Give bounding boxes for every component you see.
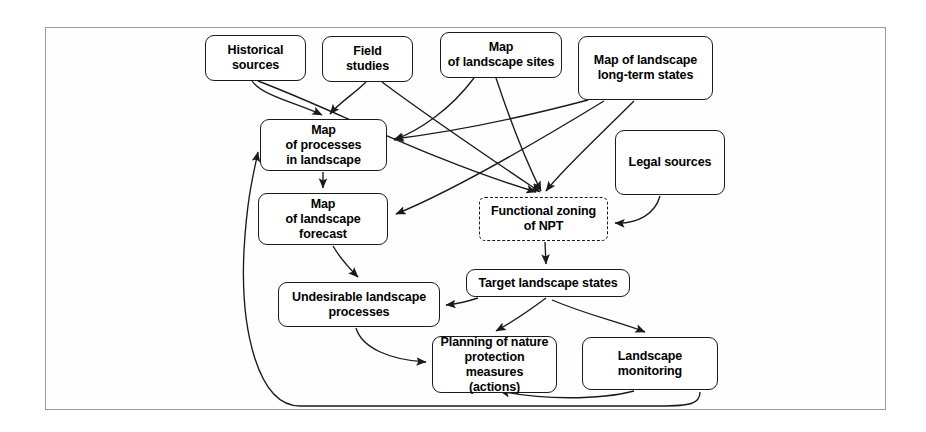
node-label-undesirable-processes: Undesirable landscape processes bbox=[292, 290, 426, 320]
node-map-landscape-long-term[interactable]: Map of landscape long-term states bbox=[578, 36, 713, 100]
node-map-landscape-sites[interactable]: Map of landscape sites bbox=[440, 32, 562, 78]
node-planning-nature-measures[interactable]: Planning of nature protection measures (… bbox=[432, 336, 557, 393]
node-landscape-monitoring[interactable]: Landscape monitoring bbox=[582, 337, 718, 390]
edge-forecast-to-undesirable bbox=[333, 246, 358, 277]
node-label-map-landscape-sites: Map of landscape sites bbox=[448, 40, 555, 70]
node-label-legal-sources: Legal sources bbox=[629, 155, 712, 170]
edge-zoning-to-target-states bbox=[545, 242, 546, 264]
node-functional-zoning-npt[interactable]: Functional zoning of NPT bbox=[479, 197, 608, 241]
node-label-planning-nature-measures: Planning of nature protection measures (… bbox=[437, 335, 552, 395]
node-target-landscape-states[interactable]: Target landscape states bbox=[466, 269, 630, 297]
edge-target-to-monitoring bbox=[552, 300, 645, 332]
edge-field-studies-to-map-processes bbox=[330, 82, 366, 114]
edge-target-to-undesirable bbox=[446, 298, 478, 305]
node-label-historical-sources: Historical sources bbox=[228, 43, 284, 73]
edge-sites-to-functional-zoning bbox=[496, 78, 541, 191]
node-label-target-landscape-states: Target landscape states bbox=[478, 276, 617, 291]
edge-target-to-planning bbox=[496, 298, 546, 331]
edge-undesirable-to-planning bbox=[356, 328, 426, 362]
node-label-map-landscape-long-term: Map of landscape long-term states bbox=[594, 53, 697, 83]
node-label-map-processes-landscape: Map of processes in landscape bbox=[286, 123, 362, 168]
node-map-landscape-forecast[interactable]: Map of landscape forecast bbox=[258, 193, 388, 245]
node-label-functional-zoning-npt: Functional zoning of NPT bbox=[491, 204, 596, 234]
node-historical-sources[interactable]: Historical sources bbox=[205, 35, 306, 81]
diagram-canvas: Historical sourcesField studiesMap of la… bbox=[0, 0, 926, 432]
node-label-map-landscape-forecast: Map of landscape forecast bbox=[285, 197, 360, 242]
edge-long-term-to-map-processes bbox=[394, 100, 588, 139]
node-field-studies[interactable]: Field studies bbox=[322, 36, 413, 82]
edge-legal-to-functional-zoning bbox=[615, 196, 660, 223]
node-label-field-studies: Field studies bbox=[346, 44, 389, 74]
node-label-landscape-monitoring: Landscape monitoring bbox=[618, 349, 682, 379]
node-undesirable-processes[interactable]: Undesirable landscape processes bbox=[278, 282, 440, 327]
node-legal-sources[interactable]: Legal sources bbox=[615, 130, 725, 195]
node-map-processes-landscape[interactable]: Map of processes in landscape bbox=[260, 119, 387, 171]
edge-historical-to-map-processes bbox=[252, 81, 322, 115]
edge-sites-to-map-processes bbox=[394, 78, 474, 140]
